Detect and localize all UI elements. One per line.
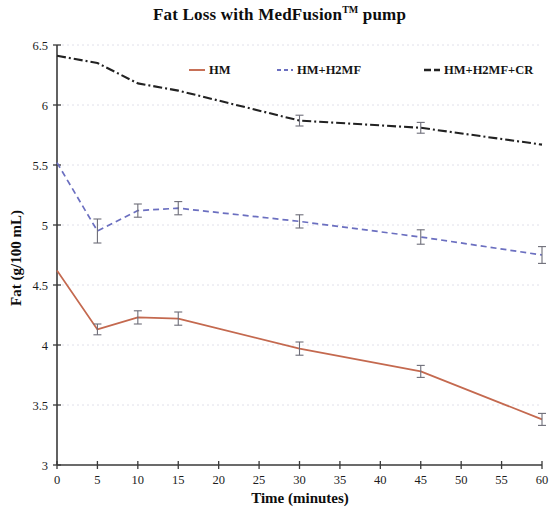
y-tick-label: 5.5 bbox=[32, 159, 48, 173]
x-tick-label: 15 bbox=[172, 473, 185, 487]
x-tick-label: 30 bbox=[293, 473, 306, 487]
legend-label: HM+H2MF bbox=[297, 63, 361, 77]
y-tick-label: 3 bbox=[42, 459, 48, 473]
x-tick-label: 45 bbox=[415, 473, 428, 487]
series-hm bbox=[57, 271, 546, 426]
chart-figure: Fat Loss with MedFusionTM pump 33.544.55… bbox=[0, 0, 559, 507]
x-tick-label: 35 bbox=[334, 473, 347, 487]
y-tick-label: 6.5 bbox=[32, 39, 48, 53]
legend-item-hm[interactable]: HM bbox=[189, 63, 231, 77]
x-axis-label: Time (minutes) bbox=[251, 490, 349, 507]
series-hm-h2mf bbox=[57, 163, 546, 264]
legend-item-hm-h2mf[interactable]: HM+H2MF bbox=[277, 63, 361, 77]
x-tick-label: 20 bbox=[212, 473, 225, 487]
x-tick-label: 50 bbox=[455, 473, 468, 487]
legend-label: HM+H2MF+CR bbox=[444, 63, 534, 77]
y-tick-label: 6 bbox=[42, 99, 48, 113]
y-tick-label: 4 bbox=[42, 339, 49, 353]
legend-label: HM bbox=[209, 63, 231, 77]
y-tick-label: 4.5 bbox=[32, 279, 48, 293]
plot-area: 33.544.555.566.5 05101520253035404550556… bbox=[0, 0, 559, 507]
y-tick-label: 5 bbox=[42, 219, 48, 233]
x-tick-label: 10 bbox=[132, 473, 145, 487]
data-series-group bbox=[57, 56, 546, 426]
x-tick-label: 40 bbox=[374, 473, 387, 487]
y-tick-label: 3.5 bbox=[32, 399, 48, 413]
x-tick-label: 25 bbox=[253, 473, 266, 487]
legend-item-hm-h2mf-cr[interactable]: HM+H2MF+CR bbox=[424, 63, 534, 77]
x-tick-label: 5 bbox=[94, 473, 100, 487]
y-axis-label: Fat (g/100 mL) bbox=[8, 210, 25, 306]
axes bbox=[57, 45, 542, 465]
x-tick-label: 0 bbox=[54, 473, 60, 487]
x-tick-label: 55 bbox=[495, 473, 508, 487]
chart-legend: HMHM+H2MFHM+H2MF+CR bbox=[189, 63, 534, 77]
x-tick-label: 60 bbox=[536, 473, 549, 487]
series-line bbox=[57, 163, 542, 255]
